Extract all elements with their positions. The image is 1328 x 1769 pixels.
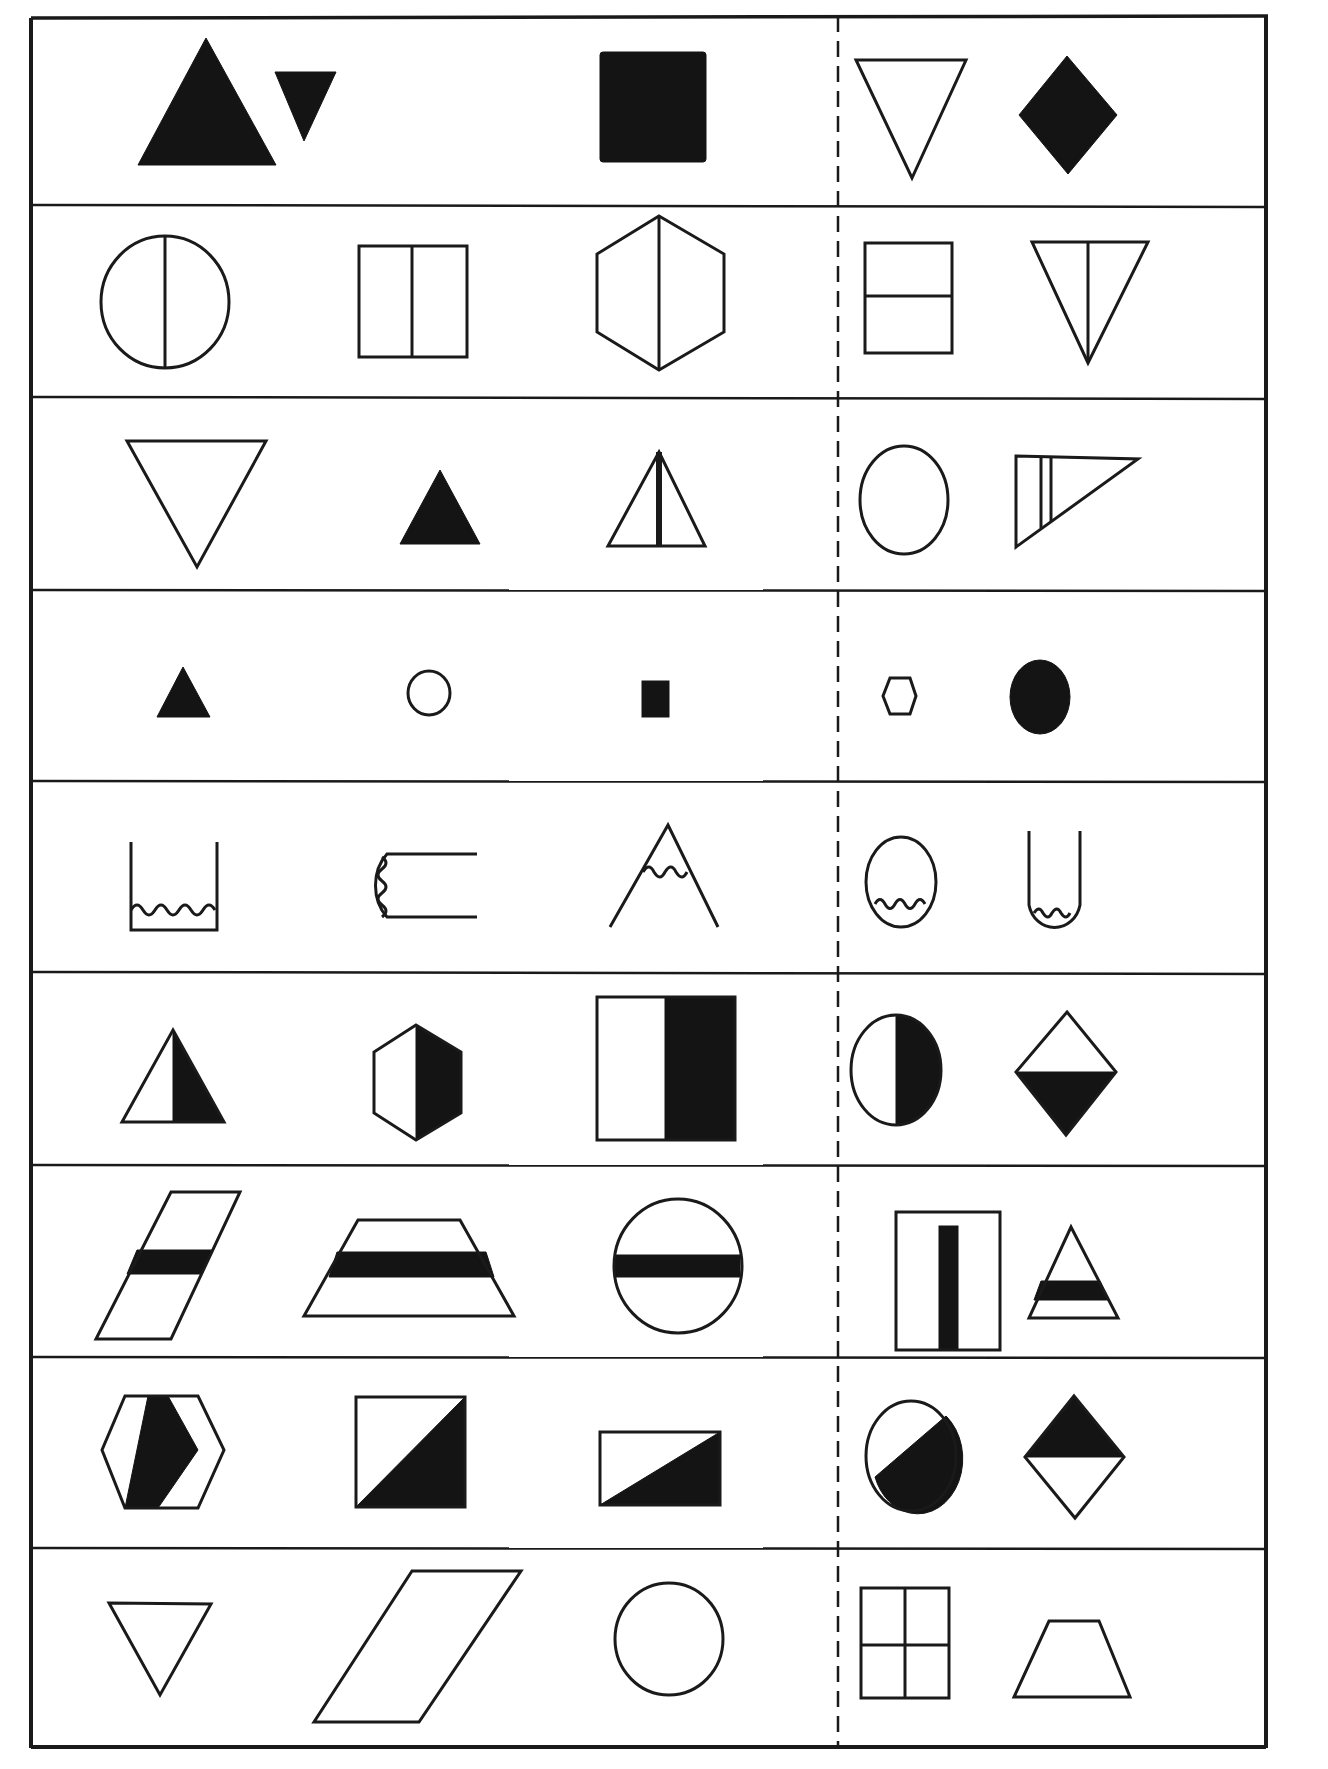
rectangle-right-half-solid-icon [597, 997, 735, 1140]
hexagon-diagonal-half-solid-icon [102, 1396, 224, 1508]
tiny-outline-hexagon-icon [883, 678, 916, 714]
row-7 [96, 1192, 1118, 1350]
triangle-up-thick-center-line-icon [608, 452, 705, 546]
tiny-solid-triangle-icon [157, 667, 210, 717]
tiny-outline-circle-icon [408, 671, 450, 715]
row-5 [131, 825, 1080, 930]
rectangle-horizontal-split-icon [865, 243, 952, 353]
row-3 [127, 441, 1138, 567]
triangle-solid-band-icon [1029, 1227, 1118, 1318]
outline-circle-icon [860, 446, 948, 554]
circle-right-half-solid-icon [851, 1015, 941, 1125]
rectangle-four-quadrants-icon [861, 1588, 949, 1698]
shape-worksheet [0, 0, 1328, 1769]
solid-diamond-icon [1019, 56, 1117, 174]
outline-triangle-down-icon [109, 1603, 211, 1695]
outline-triangle-down-icon [127, 441, 266, 567]
small-solid-circle-icon [1010, 660, 1070, 734]
rectangle-diagonal-half-solid-icon [600, 1432, 720, 1505]
circle-solid-band-icon [614, 1199, 742, 1333]
hexagon-vertical-split-icon [597, 216, 724, 370]
tiny-solid-square-icon [642, 681, 669, 717]
solid-square-icon [600, 52, 706, 162]
row-9 [109, 1571, 1130, 1722]
hexagon-right-half-solid-icon [374, 1025, 461, 1140]
circle-diagonal-half-solid-icon [866, 1401, 963, 1514]
open-peak-with-wavy-line-icon [610, 825, 718, 927]
circle-with-wavy-bottom-icon [866, 837, 936, 927]
right-triangle-double-lines-icon [1016, 456, 1138, 547]
small-solid-triangle-up-icon [400, 470, 480, 544]
trapezoid-solid-band-icon [304, 1220, 514, 1316]
outline-trapezoid-icon [1014, 1621, 1130, 1697]
outline-circle-icon [615, 1583, 723, 1695]
circle-vertical-split-icon [101, 236, 229, 368]
rectangle-vertical-split-icon [359, 246, 467, 357]
diamond-top-half-solid-icon [1025, 1396, 1124, 1518]
cup-with-wavy-liquid-icon [131, 842, 217, 930]
parallelogram-solid-band-icon [96, 1192, 240, 1339]
outline-parallelogram-icon [314, 1571, 521, 1722]
row-4 [157, 660, 1070, 734]
triangle-down-vertical-split-icon [1032, 242, 1148, 363]
small-solid-triangle-down-icon [275, 72, 336, 141]
row-6 [122, 997, 1116, 1140]
row-2 [101, 216, 1148, 370]
rectangle-vertical-solid-band-icon [896, 1212, 1000, 1350]
sideways-u-with-wavy-line-icon [375, 854, 477, 917]
square-diagonal-half-solid-icon [356, 1397, 465, 1507]
large-solid-triangle-up-icon [138, 38, 276, 165]
row-8 [102, 1396, 1124, 1518]
diamond-bottom-half-solid-icon [1016, 1012, 1116, 1135]
u-tube-with-wavy-bottom-icon [1029, 831, 1080, 928]
outline-triangle-down-icon [856, 60, 966, 178]
row-1 [138, 38, 1117, 178]
triangle-right-half-solid-icon [122, 1030, 224, 1122]
